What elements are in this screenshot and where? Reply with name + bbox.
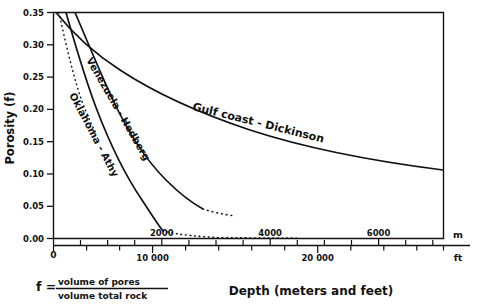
y-tick-005: 0.05	[23, 201, 44, 211]
y-axis-title: Porosity (f)	[3, 91, 17, 164]
y-tick-015: 0.15	[23, 137, 44, 147]
y-tick-000: 0.00	[23, 234, 44, 244]
depth-axis-origin-label: 0	[50, 250, 56, 260]
y-tick-010: 0.10	[23, 169, 44, 179]
chart-background	[0, 0, 482, 308]
x-axis-title: Depth (meters and feet)	[229, 284, 394, 298]
y-tick-030: 0.30	[23, 40, 44, 50]
unit-label-feet: ft	[454, 252, 463, 263]
m-tick-4000: 4000	[258, 228, 282, 238]
formula-lhs: f =	[36, 279, 56, 294]
porosity-depth-chart: 0.35 0.30 0.25 0.20 0.15 0.10 0.05 0.00 …	[0, 0, 482, 308]
y-tick-025: 0.25	[23, 72, 44, 82]
ft-tick-10000: 10 000	[136, 253, 169, 263]
formula-denominator: volume total rock	[58, 291, 148, 301]
ft-tick-20000: 20 000	[301, 253, 334, 263]
m-tick-6000: 6000	[367, 228, 391, 238]
formula-numerator: volume of pores	[58, 277, 140, 287]
y-tick-020: 0.20	[23, 104, 44, 114]
y-tick-035: 0.35	[23, 8, 44, 18]
m-tick-2000: 2000	[150, 228, 174, 238]
unit-label-meters: m	[453, 229, 463, 240]
